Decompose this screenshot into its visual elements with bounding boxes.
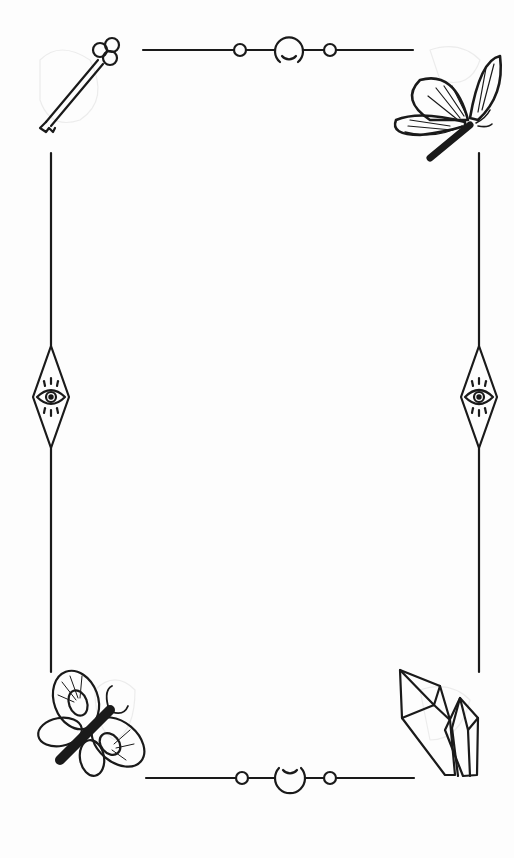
- blank-content-area: [80, 80, 450, 760]
- top-border: [143, 37, 413, 62]
- right-border: [461, 153, 497, 672]
- crescent-moon-icon: [275, 37, 303, 62]
- eye-icon: [37, 378, 65, 416]
- left-border: [33, 153, 69, 672]
- decorative-frame: [0, 0, 514, 858]
- crescent-moon-icon: [275, 768, 305, 793]
- eye-icon: [465, 378, 493, 416]
- bottom-border: [146, 768, 414, 793]
